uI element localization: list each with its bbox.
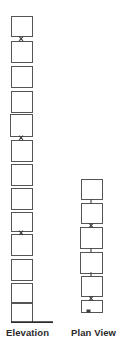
elevation-box xyxy=(11,115,33,137)
diagram-canvas xyxy=(0,0,118,343)
plan-view-column xyxy=(81,180,103,313)
elevation-box xyxy=(12,213,33,232)
elevation-box xyxy=(12,165,33,186)
elevation-box xyxy=(12,304,33,323)
elevation-label: Elevation xyxy=(6,327,49,338)
elevation-box xyxy=(12,42,33,63)
elevation-box xyxy=(12,189,33,210)
elevation-boxes xyxy=(11,17,33,323)
elevation-box xyxy=(12,284,33,303)
plan-view-label: Plan View xyxy=(71,327,116,338)
plan-view-box xyxy=(82,277,103,297)
connector-mark xyxy=(87,310,91,313)
plan-view-connectors xyxy=(87,199,94,312)
plan-view-box xyxy=(82,180,103,200)
elevation-box xyxy=(12,17,33,37)
plan-view-box xyxy=(82,301,103,313)
elevation-box xyxy=(12,92,33,113)
elevation-box xyxy=(12,141,33,162)
elevation-box xyxy=(12,67,33,88)
plan-view-box xyxy=(81,228,103,249)
plan-view-box xyxy=(81,253,103,274)
elevation-box xyxy=(12,260,33,281)
connector-mark xyxy=(89,223,93,227)
connector-mark xyxy=(19,37,23,41)
elevation-column xyxy=(11,17,54,323)
plan-view-box xyxy=(82,204,103,224)
technical-diagram: Elevation Plan View xyxy=(0,0,118,343)
elevation-box xyxy=(12,235,33,256)
